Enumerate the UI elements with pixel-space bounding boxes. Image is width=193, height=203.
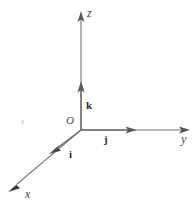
origin-label: O bbox=[66, 115, 74, 126]
z-axis-label: z bbox=[87, 7, 92, 19]
y-axis-label: y bbox=[181, 133, 186, 145]
k-unit-vector bbox=[77, 81, 84, 130]
x-axis-label: x bbox=[25, 188, 30, 200]
i-unit-vector bbox=[49, 130, 81, 154]
k-vector-label: k bbox=[86, 100, 92, 111]
i-vector-label: i bbox=[69, 149, 72, 160]
i-vector-line bbox=[56, 130, 81, 149]
j-unit-vector bbox=[81, 126, 137, 133]
coordinate-axes-figure: O x y z i j k bbox=[0, 0, 193, 203]
x-axis bbox=[8, 130, 81, 192]
axes-drawing bbox=[0, 0, 193, 203]
j-vector-label: j bbox=[104, 134, 108, 145]
stray-speck-artifact bbox=[21, 120, 24, 124]
